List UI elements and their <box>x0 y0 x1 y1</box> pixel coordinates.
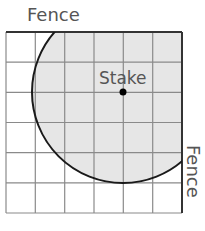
right-fence-label: Fence <box>183 145 204 198</box>
stake-label: Stake <box>99 68 147 88</box>
top-fence-label: Fence <box>27 4 80 25</box>
stake-dot <box>120 89 127 96</box>
stake-fence-diagram: Stake Fence Fence <box>0 0 205 231</box>
